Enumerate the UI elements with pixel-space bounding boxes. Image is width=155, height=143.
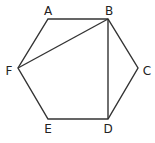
vertex-label-b: B <box>105 4 113 18</box>
vertex-label-d: D <box>103 122 112 136</box>
hexagon-canvas: A B C D E F <box>0 0 155 143</box>
hexagon-diagram: A B C D E F <box>0 0 155 143</box>
vertex-label-f: F <box>6 64 13 78</box>
vertex-label-c: C <box>143 64 151 78</box>
vertex-label-a: A <box>44 4 53 18</box>
vertex-label-e: E <box>44 122 52 136</box>
hexagon-outline <box>18 19 138 119</box>
